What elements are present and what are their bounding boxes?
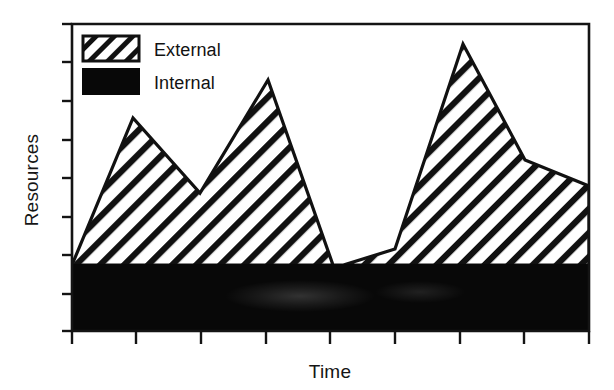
chart-svg: External Internal Time Resources	[0, 0, 614, 390]
y-axis-title: Resources	[21, 134, 42, 227]
scan-artifact	[375, 281, 465, 303]
legend-swatch-internal	[83, 69, 139, 94]
legend-swatch-external	[83, 36, 139, 61]
legend-label-external: External	[154, 40, 221, 60]
scan-artifact	[225, 280, 375, 312]
x-axis-title: Time	[309, 361, 351, 382]
chart-figure: External Internal Time Resources	[0, 0, 614, 390]
legend-label-internal: Internal	[154, 73, 215, 93]
